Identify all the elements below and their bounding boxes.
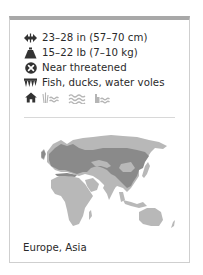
fact-size-text: 23–28 in (57–70 cm)	[42, 32, 147, 43]
species-fact-card: 23–28 in (57–70 cm) 15–22 lb (7–10 kg) N…	[9, 16, 190, 263]
fact-diet: Fish, ducks, water voles	[24, 75, 181, 90]
fact-status: Near threatened	[24, 60, 181, 75]
range-map-graphic	[27, 130, 177, 230]
length-arrows-icon	[24, 32, 37, 44]
habitat-home-icon	[24, 92, 37, 104]
divider	[24, 117, 175, 118]
wetland-icon	[42, 92, 60, 104]
fact-weight: 15–22 lb (7–10 kg)	[24, 45, 181, 60]
range-map	[27, 130, 177, 230]
fact-size: 23–28 in (57–70 cm)	[24, 30, 181, 45]
conservation-status-icon	[24, 62, 37, 74]
weight-icon	[24, 47, 37, 59]
region-label: Europe, Asia	[23, 242, 87, 253]
diet-teeth-icon	[24, 77, 37, 89]
river-icon	[68, 92, 86, 104]
habitat-types	[42, 92, 112, 104]
fact-habitat	[24, 90, 181, 105]
fact-diet-text: Fish, ducks, water voles	[42, 77, 165, 88]
fact-list: 23–28 in (57–70 cm) 15–22 lb (7–10 kg) N…	[24, 30, 181, 105]
fact-status-text: Near threatened	[42, 62, 127, 73]
coast-icon	[94, 92, 112, 104]
fact-weight-text: 15–22 lb (7–10 kg)	[42, 47, 138, 58]
